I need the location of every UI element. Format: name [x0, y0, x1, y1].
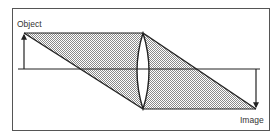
object-label: Object	[17, 19, 42, 29]
lens-ray-diagram: Object Image	[0, 0, 277, 140]
image-label: Image	[240, 115, 264, 125]
